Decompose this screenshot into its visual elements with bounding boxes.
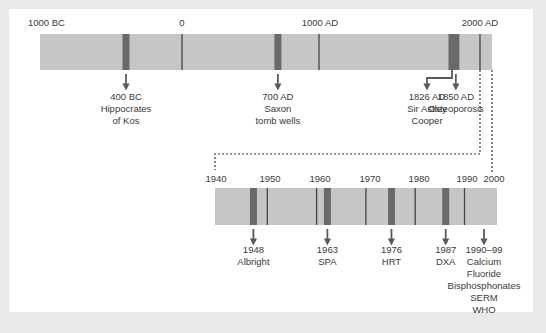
event-label-line: 1850 AD bbox=[438, 91, 475, 102]
event-label-line: Calcium bbox=[467, 256, 501, 267]
top-tick-label: 2000 AD bbox=[462, 17, 499, 28]
event-label-line: of Kos bbox=[113, 115, 140, 126]
bottom-tick-label: 1950 bbox=[259, 173, 280, 184]
event-label-line: 1990–99 bbox=[466, 244, 503, 255]
event-band bbox=[388, 188, 395, 225]
event-label-line: 1976 bbox=[381, 244, 402, 255]
event-band bbox=[123, 34, 130, 70]
event-label-line: HRT bbox=[382, 256, 402, 267]
event-band bbox=[442, 188, 449, 225]
bottom-tick-label: 1960 bbox=[309, 173, 330, 184]
event-label-line: 1987 bbox=[435, 244, 456, 255]
bottom-tick-label: 1970 bbox=[359, 173, 380, 184]
event-label-line: 1963 bbox=[317, 244, 338, 255]
event-label-line: Cooper bbox=[411, 115, 442, 126]
event-label-line: Bisphosphonates bbox=[448, 280, 521, 291]
bottom-tick-label: 1940 bbox=[205, 173, 226, 184]
elbow-arrow-icon bbox=[427, 70, 452, 87]
event-band bbox=[250, 188, 257, 225]
top-tick-label: 1000 AD bbox=[302, 17, 339, 28]
event-band bbox=[452, 34, 459, 70]
event-label-line: tomb wells bbox=[255, 115, 300, 126]
event-band bbox=[274, 34, 281, 70]
event-label-line: WHO bbox=[472, 304, 495, 315]
event-label-line: SERM bbox=[470, 292, 498, 303]
bottom-tick-label: 1980 bbox=[408, 173, 429, 184]
event-band bbox=[324, 188, 331, 225]
event-label-line: Hippocrates bbox=[101, 103, 152, 114]
bottom-timeline-bar bbox=[215, 188, 497, 225]
event-label-line: SPA bbox=[318, 256, 337, 267]
osteoporosis-history-timeline: 1000 BC01000 AD2000 AD400 BCHippocrateso… bbox=[0, 0, 546, 333]
top-tick-label: 1000 BC bbox=[28, 17, 65, 28]
event-label-line: 1948 bbox=[243, 244, 264, 255]
event-label-line: DXA bbox=[436, 256, 456, 267]
top-timeline-bar bbox=[40, 34, 492, 70]
event-label-line: Albright bbox=[237, 256, 270, 267]
top-tick-label: 0 bbox=[179, 17, 184, 28]
bottom-tick-label: 1990 bbox=[456, 173, 477, 184]
bottom-timeline: 19401950196019701980199020001948Albright… bbox=[205, 173, 520, 315]
event-label-line: Saxon bbox=[264, 103, 291, 114]
bottom-tick-label: 2000 bbox=[483, 173, 504, 184]
event-label-line: Fluoride bbox=[467, 268, 501, 279]
event-label-line: Osteoporosis bbox=[428, 103, 484, 114]
top-timeline: 1000 BC01000 AD2000 AD400 BCHippocrateso… bbox=[28, 17, 498, 126]
event-label-line: 400 BC bbox=[110, 91, 142, 102]
event-label-line: 700 AD bbox=[262, 91, 293, 102]
